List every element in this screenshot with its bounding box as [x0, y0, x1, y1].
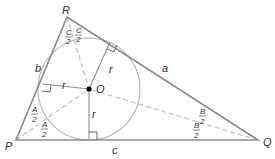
- radius-to-b: [43, 84, 89, 89]
- half-angle-C-right: C 2: [75, 26, 82, 44]
- radius-label-b: r: [62, 79, 67, 91]
- incircle-diagram: R P Q O a b c r r r C 2 C 2 A 2 A 2 B 2 …: [0, 0, 275, 159]
- triangle-PQR: [16, 17, 258, 140]
- svg-text:A: A: [41, 120, 47, 129]
- vertex-label-Q: Q: [263, 136, 272, 148]
- incenter-dot: [86, 86, 91, 91]
- radius-to-a: [89, 42, 110, 89]
- svg-text:B: B: [194, 121, 200, 130]
- svg-text:2: 2: [75, 35, 81, 44]
- half-angle-A-upper: A 2: [31, 105, 38, 124]
- bisector-Q: [89, 89, 258, 140]
- svg-text:2: 2: [31, 115, 37, 124]
- half-angle-C-left: C 2: [65, 28, 72, 46]
- svg-text:B: B: [200, 107, 206, 116]
- right-angle-marker-b: [42, 85, 51, 92]
- half-angle-A-lower: A 2: [41, 120, 48, 139]
- half-angle-B-lower: B 2: [193, 121, 200, 140]
- radius-label-c: r: [92, 108, 97, 120]
- svg-text:C: C: [66, 28, 72, 37]
- svg-text:2: 2: [65, 37, 71, 46]
- side-label-c: c: [112, 144, 118, 156]
- side-label-a: a: [162, 62, 168, 74]
- svg-text:2: 2: [193, 131, 199, 140]
- svg-text:C: C: [76, 26, 82, 35]
- half-angle-B-upper: B 2: [199, 107, 206, 126]
- right-angle-marker-c: [89, 132, 97, 140]
- incenter-label-O: O: [96, 83, 105, 95]
- svg-text:2: 2: [41, 130, 47, 139]
- side-label-b: b: [35, 62, 41, 74]
- vertex-label-P: P: [5, 140, 13, 152]
- svg-text:2: 2: [199, 117, 205, 126]
- radius-label-a: r: [109, 63, 114, 75]
- svg-text:A: A: [31, 105, 37, 114]
- vertex-label-R: R: [62, 4, 70, 16]
